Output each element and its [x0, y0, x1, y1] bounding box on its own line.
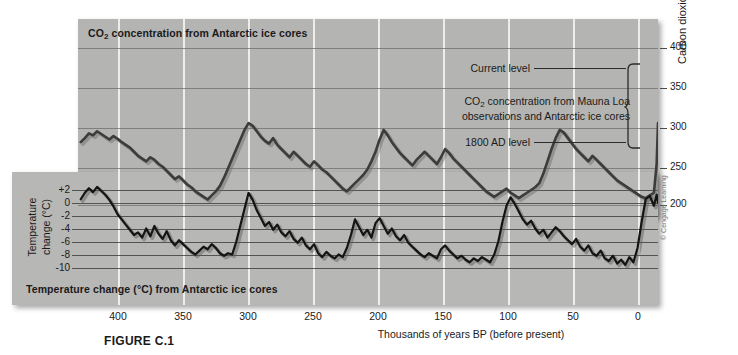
- x-tick-50: 50: [553, 310, 593, 322]
- co2-tick-300: 300: [670, 121, 687, 132]
- temperature-curve: [81, 187, 658, 265]
- annotation-current-level: Current level: [430, 62, 530, 74]
- temperature-panel-title: Temperature change (°C) from Antarctic i…: [26, 283, 278, 295]
- annotation-mauna-loa-line1: CO2 concentration from Mauna Loa: [400, 95, 630, 109]
- co2-curve: [81, 123, 658, 199]
- x-tick-300: 300: [228, 310, 268, 322]
- temperature-axis-label-line2: change (°C): [40, 182, 52, 272]
- annotation-1800-ad-level: 1800 AD level: [440, 136, 530, 148]
- x-axis-label-text: Thousands of years BP (before present): [378, 328, 565, 340]
- annotation-1800-ad-level-leader: [534, 142, 626, 143]
- figure-c1: CO2 concentration from Antarctic ice cor…: [0, 0, 738, 355]
- copyright-credit: © Cengage Learning: [660, 175, 667, 240]
- x-tick-400: 400: [98, 310, 138, 322]
- x-tick-0: 0: [618, 310, 658, 322]
- co2-tick-250: 250: [670, 161, 687, 172]
- co2-tick-350: 350: [670, 81, 687, 92]
- x-tick-150: 150: [423, 310, 463, 322]
- figure-caption: FIGURE C.1: [104, 334, 174, 348]
- co2-title-rest: concentration from Antarctic ice cores: [109, 27, 308, 39]
- annotation-mauna-loa-line2: observations and Antarctic ice cores: [400, 110, 630, 122]
- annotation-brace: [624, 62, 642, 150]
- x-tick-250: 250: [293, 310, 333, 322]
- co2-tick-200: 200: [670, 198, 687, 209]
- temperature-curve-shadow: [83, 189, 658, 267]
- annotation-current-level-leader: [534, 68, 626, 69]
- co2-axis-label: Carbon dioxide (ppmv): [676, 0, 688, 64]
- x-tick-100: 100: [488, 310, 528, 322]
- temperature-axis-label-line1: Temperature: [26, 182, 38, 272]
- co2-title-prefix: CO: [88, 27, 104, 39]
- x-tick-350: 350: [163, 310, 203, 322]
- co2-panel-title: CO2 concentration from Antarctic ice cor…: [88, 27, 308, 41]
- data-curves: [78, 19, 658, 305]
- x-tick-200: 200: [358, 310, 398, 322]
